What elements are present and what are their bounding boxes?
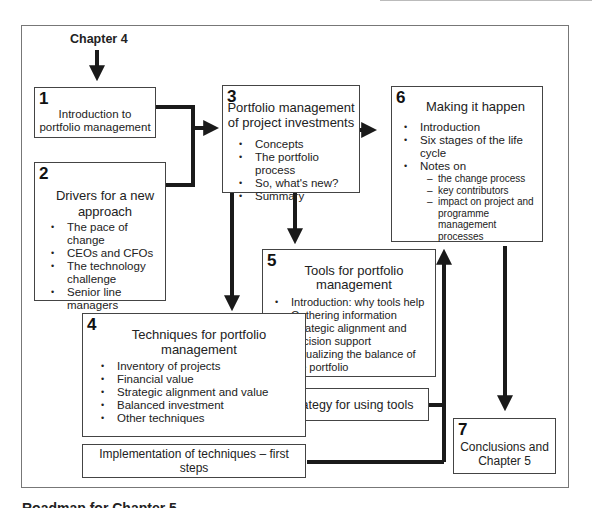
list-item: So, what's new? xyxy=(235,177,357,190)
sub-list-item: key contributors xyxy=(416,185,540,197)
box-implementation-first-steps: Implementation of techniques – first ste… xyxy=(82,444,306,478)
list-item: Summary xyxy=(235,190,357,203)
box-1-introduction: 1 Introduction to portfolio management xyxy=(34,87,156,138)
list-item: Balanced investment xyxy=(97,399,303,412)
box-title: Conclusions and Chapter 5 xyxy=(456,440,553,468)
list-item: The portfolio process xyxy=(235,151,357,177)
list-item: Introduction: why tools help xyxy=(271,296,433,309)
list-item: Senior line managers xyxy=(47,286,163,312)
box-number: 2 xyxy=(39,164,48,184)
list-item: Strategic alignment and value xyxy=(97,386,303,399)
sub-list-item: the change process xyxy=(416,173,540,185)
list-item: Inventory of projects xyxy=(97,360,303,373)
box-title: Tools for portfolio management xyxy=(283,264,425,292)
box-6-making-it-happen: 6 Making it happen Introduction Six stag… xyxy=(391,86,543,242)
list-item: Concepts xyxy=(235,138,357,151)
box-4-list: Inventory of projects Financial value St… xyxy=(97,360,303,425)
list-item: Introduction xyxy=(400,121,540,134)
box-number: 4 xyxy=(87,315,96,335)
list-item: Financial value xyxy=(97,373,303,386)
box-title: Drivers for a new approach xyxy=(49,188,161,220)
box-number: 7 xyxy=(458,420,467,440)
list-item: CEOs and CFOs xyxy=(47,247,163,260)
box-title: Introduction to portfolio management xyxy=(39,108,151,134)
box-number: 6 xyxy=(396,88,405,108)
box-title: Implementation of techniques – first ste… xyxy=(85,447,303,475)
box-6-sublist: the change process key contributors impa… xyxy=(416,173,540,242)
box-2-list: The pace of change CEOs and CFOs The tec… xyxy=(47,221,163,312)
box-title: Making it happen xyxy=(412,99,538,114)
box-number: 5 xyxy=(267,251,276,271)
box-4-techniques: 4 Techniques for portfolio management In… xyxy=(82,313,306,437)
sub-list-item: impact on project and programme manageme… xyxy=(416,196,540,242)
box-7-conclusions: 7 Conclusions and Chapter 5 xyxy=(453,418,556,474)
box-3-portfolio-management: 3 Portfolio management of project invest… xyxy=(222,85,360,193)
box-3-list: Concepts The portfolio process So, what'… xyxy=(235,138,357,203)
box-2-drivers: 2 Drivers for a new approach The pace of… xyxy=(34,162,166,301)
list-item: The technology challenge xyxy=(47,260,163,286)
figure-caption: Roadmap for Chapter 5 xyxy=(22,501,177,508)
list-item: Six stages of the life cycle xyxy=(400,134,540,160)
box-number: 1 xyxy=(39,89,48,109)
box-title: Techniques for portfolio management xyxy=(103,327,295,357)
box-6-list: Introduction Six stages of the life cycl… xyxy=(400,121,540,173)
box-title: Portfolio management of project investme… xyxy=(227,100,355,130)
list-item: Notes on xyxy=(400,160,540,173)
list-item: The pace of change xyxy=(47,221,163,247)
list-item: Other techniques xyxy=(97,412,303,425)
